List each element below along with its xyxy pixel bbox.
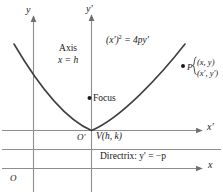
directrix-label: Directrix: y' = −p — [100, 152, 166, 162]
equation-lhs: (x') — [106, 35, 119, 45]
point-p-label: P — [187, 63, 193, 72]
coordinate-brace — [193, 57, 197, 75]
origin-prime-label: O' — [77, 133, 85, 142]
axis-word: Axis — [58, 42, 78, 54]
focus-label: Focus — [93, 94, 116, 104]
vertex-label: V(h, k) — [96, 132, 122, 142]
parabola-figure: y y' x' x O O' V(h, k) Axis x = h (x')2 … — [0, 0, 223, 194]
y-prime-axis-label: y' — [86, 4, 93, 14]
origin-label: O — [10, 174, 17, 183]
point-p-unprimed-coords: (x, y) — [197, 57, 218, 68]
equation-rhs: = 4py' — [124, 35, 149, 45]
point-p-marker — [181, 64, 185, 68]
axis-equation: x = h — [58, 54, 78, 66]
x-axis-label: x — [208, 160, 212, 170]
x-prime-axis-label: x' — [207, 122, 214, 132]
axis-of-symmetry-annotation: Axis x = h — [58, 42, 78, 66]
focus-point — [88, 96, 92, 100]
y-axis-label: y — [26, 5, 30, 15]
point-p-primed-coords: (x', y') — [197, 68, 218, 79]
point-p-coordinates: (x, y) (x', y') — [197, 57, 218, 80]
parabola-equation: (x')2 = 4py' — [106, 34, 149, 46]
parabola-curve — [14, 44, 185, 131]
equation-exponent: 2 — [119, 33, 122, 40]
